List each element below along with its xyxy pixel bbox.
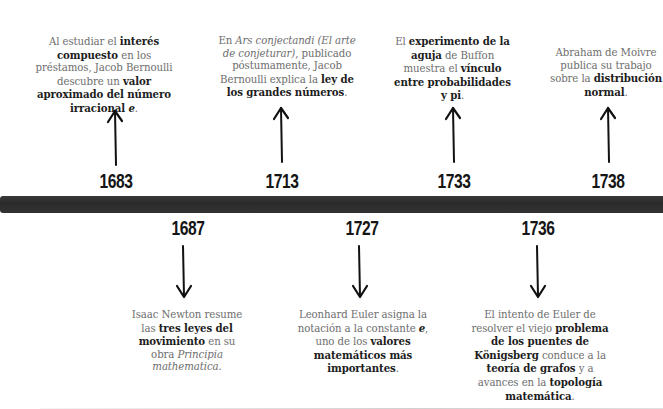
desc-text: conduce a la: [539, 350, 606, 361]
desc-text: .: [396, 363, 399, 374]
arrow-down-icon: [174, 244, 194, 300]
event-desc-1733: El experimento de la aguja de Buffon mue…: [390, 35, 515, 103]
desc-text: .: [219, 361, 222, 372]
event-desc-1738: Abraham de Moivre publica su trabajo sob…: [546, 47, 663, 99]
arrow-up-icon: [598, 105, 618, 165]
event-desc-1687: Isaac Newton resume las tres leyes del m…: [128, 309, 246, 374]
desc-text: .: [572, 391, 575, 402]
arrow-up-icon: [271, 105, 291, 165]
event-desc-1736: El intento de Euler de resolver el viejo…: [470, 309, 610, 403]
desc-text: Leonhard Euler asigna la notación a la c…: [298, 309, 427, 334]
arrow-up-icon: [105, 108, 125, 168]
event-year-1713: 1713: [259, 170, 306, 193]
arrow-up-icon: [443, 105, 463, 165]
desc-emphasis: teoría de grafos: [487, 362, 576, 374]
arrow-down-icon: [350, 244, 370, 300]
desc-emphasis: distribución normal: [584, 72, 662, 98]
desc-text: .: [135, 103, 138, 114]
event-year-1736: 1736: [515, 217, 562, 240]
event-desc-1727: Leonhard Euler asigna la notación a la c…: [293, 309, 433, 376]
desc-text: Al estudiar el: [49, 36, 120, 47]
event-year-1687: 1687: [165, 217, 212, 240]
desc-text: El: [395, 36, 409, 47]
event-year-1683: 1683: [93, 170, 140, 193]
event-desc-1713: En Ars conjectandi (El arte de conjetura…: [212, 35, 362, 100]
desc-text: .: [461, 90, 464, 101]
desc-text: .: [625, 87, 628, 98]
timeline-bar: [0, 196, 663, 213]
event-year-1738: 1738: [585, 170, 632, 193]
event-year-1733: 1733: [431, 170, 478, 193]
arrow-down-icon: [528, 244, 548, 300]
event-year-1727: 1727: [339, 217, 386, 240]
event-desc-1683: Al estudiar el interés compuesto en los …: [30, 35, 178, 116]
desc-text: En: [218, 35, 235, 46]
desc-text: .: [344, 87, 347, 98]
